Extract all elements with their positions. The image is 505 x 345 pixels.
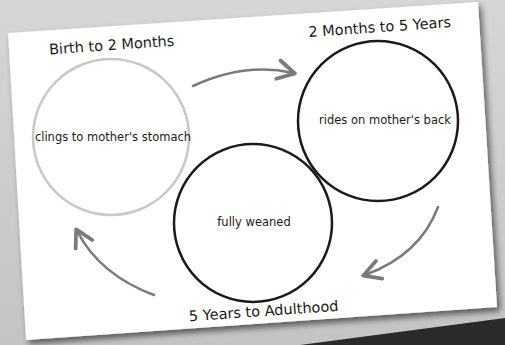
diagram-stage: Birth to 2 Months clings to mother's sto… xyxy=(0,0,505,345)
stage-2-description: rides on mother's back xyxy=(319,113,451,127)
stage-1-description: clings to mother's stomach xyxy=(35,130,191,144)
stage-3-description: fully weaned xyxy=(217,215,290,229)
cycle-diagram: Birth to 2 Months clings to mother's sto… xyxy=(0,0,505,345)
